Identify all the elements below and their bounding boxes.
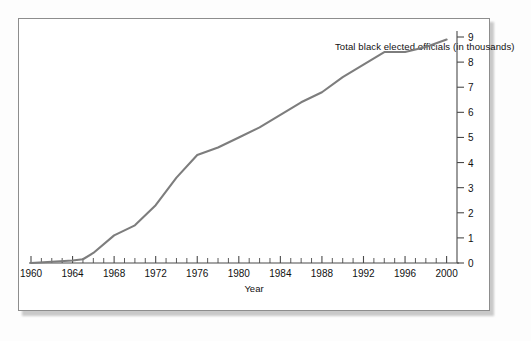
y-tick-label: 9 (468, 32, 474, 43)
y-tick-label: 8 (468, 57, 474, 68)
x-tick-label: 1980 (228, 268, 250, 279)
screenshot-canvas: Total black elected officials (in thousa… (0, 0, 531, 341)
y-tick-label: 1 (468, 232, 474, 243)
x-tick-label: 1984 (269, 268, 291, 279)
y-tick-label: 0 (468, 258, 474, 269)
x-tick-label: 1964 (61, 268, 83, 279)
line-chart-plot (19, 19, 489, 310)
y-tick-label: 4 (468, 157, 474, 168)
x-tick-label: 1996 (394, 268, 416, 279)
y-tick-label: 3 (468, 182, 474, 193)
x-tick-label: 2000 (435, 268, 457, 279)
y-tick-label: 7 (468, 82, 474, 93)
x-tick-label: 1972 (145, 268, 167, 279)
x-axis-title: Year (19, 283, 489, 294)
x-tick-label: 1988 (311, 268, 333, 279)
x-tick-label: 1976 (186, 268, 208, 279)
y-tick-label: 6 (468, 107, 474, 118)
chart-figure: Total black elected officials (in thousa… (18, 18, 490, 311)
y-tick-label: 2 (468, 207, 474, 218)
x-tick-label: 1968 (103, 268, 125, 279)
x-tick-label: 1960 (20, 268, 42, 279)
x-tick-label: 1992 (352, 268, 374, 279)
y-tick-label: 5 (468, 132, 474, 143)
